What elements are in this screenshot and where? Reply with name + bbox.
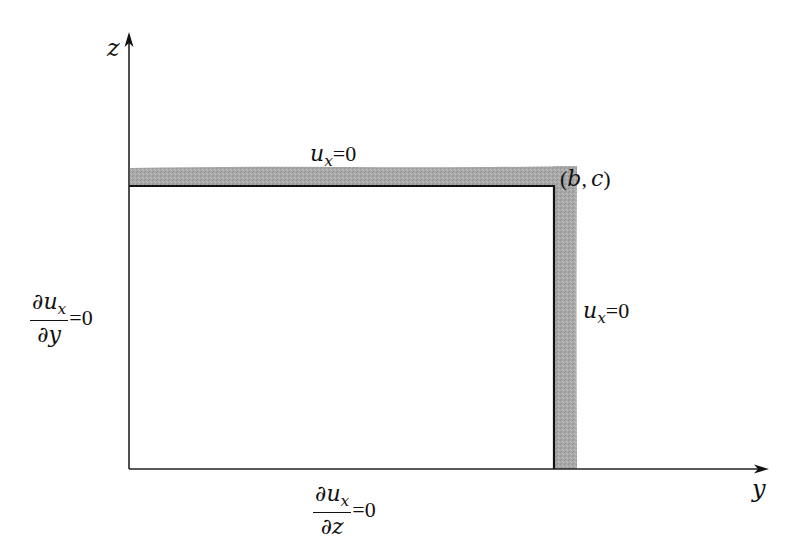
boundary-condition-diagram: z y ux=0 (b,c) ux=0 ∂ux ∂y =0 ∂ux ∂z =0 [0, 0, 799, 557]
diagram-graphics [0, 0, 799, 557]
left-bc-num-sub: x [58, 300, 67, 318]
top-bc-subscript: x [324, 152, 333, 170]
left-bc-fraction-bar [30, 320, 68, 322]
corner-b: b [567, 166, 581, 191]
top-boundary-condition: ux=0 [310, 143, 356, 170]
bottom-bc-num-var: u [326, 481, 340, 506]
right-boundary-condition: ux=0 [583, 300, 629, 327]
left-bc-den-var: y [49, 322, 61, 347]
left-boundary-condition: ∂ux ∂y =0 [30, 290, 93, 346]
left-bc-denominator: ∂y [35, 323, 63, 346]
left-bc-num-var: u [43, 289, 57, 314]
right-boundary-shading [554, 166, 577, 469]
bottom-bc-equals: = [352, 499, 364, 521]
bottom-boundary-condition: ∂ux ∂z =0 [313, 482, 376, 538]
left-bc-fraction: ∂ux ∂y [30, 290, 68, 346]
left-bc-value: 0 [82, 307, 93, 329]
right-bc-variable: u [583, 298, 597, 323]
right-bc-subscript: x [597, 309, 606, 327]
bottom-bc-fraction-bar [313, 512, 351, 514]
bottom-bc-value: 0 [365, 499, 376, 521]
bottom-bc-numerator: ∂ux [313, 482, 351, 510]
left-bc-den-partial: ∂ [37, 322, 48, 347]
bottom-bc-fraction: ∂ux ∂z [313, 482, 351, 538]
top-bc-equals: = [333, 141, 345, 166]
bottom-bc-num-partial: ∂ [315, 481, 326, 506]
left-bc-numerator: ∂ux [30, 290, 68, 318]
left-bc-num-partial: ∂ [32, 289, 43, 314]
left-bc-equals: = [69, 307, 81, 329]
corner-comma: , [581, 166, 587, 191]
bottom-bc-denominator: ∂z [319, 515, 346, 538]
top-bc-variable: u [310, 141, 324, 166]
right-bc-value: 0 [618, 298, 629, 323]
corner-point-label: (b,c) [560, 168, 611, 190]
corner-close-paren: ) [603, 166, 610, 191]
corner-c: c [591, 166, 603, 191]
bottom-bc-den-var: z [332, 514, 344, 539]
bottom-bc-num-sub: x [341, 492, 350, 510]
z-axis-label: z [107, 36, 120, 60]
top-bc-value: 0 [345, 141, 356, 166]
y-axis-label: y [752, 477, 766, 501]
bottom-bc-den-partial: ∂ [321, 514, 332, 539]
right-bc-equals: = [606, 298, 618, 323]
